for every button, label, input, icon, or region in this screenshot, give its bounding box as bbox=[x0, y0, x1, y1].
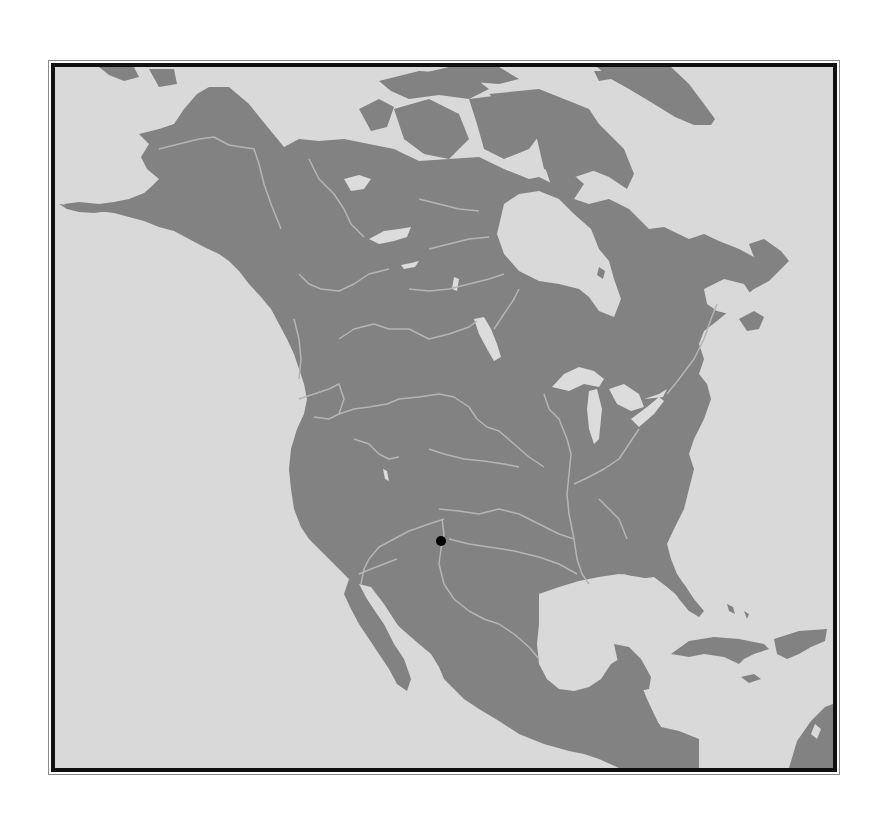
map-frame bbox=[51, 63, 837, 772]
north-america-map bbox=[55, 67, 833, 768]
location-marker bbox=[436, 536, 446, 546]
